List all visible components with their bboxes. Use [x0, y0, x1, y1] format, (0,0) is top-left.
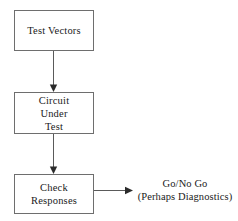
box-label-line-2: Responses [31, 194, 77, 207]
box-label-line-2: Under [40, 107, 67, 120]
arrow-vectors-to-circuit [50, 51, 57, 92]
arrow-check-to-output [94, 187, 133, 194]
process-box-test-vectors: Test Vectors [14, 10, 94, 51]
output-label-line-2: (Perhaps Diagnostics) [133, 190, 237, 203]
arrowhead-icon [50, 85, 57, 93]
box-label-line-1: Circuit [39, 94, 70, 107]
box-label-line-1: Check [40, 181, 68, 194]
box-label-line-1: Test Vectors [27, 24, 81, 37]
process-box-check-responses: Check Responses [14, 174, 94, 214]
box-label-line-3: Test [45, 120, 63, 133]
arrowhead-icon [125, 187, 133, 194]
flowchart-diagram: Test Vectors Circuit Under Test Check Re… [0, 0, 238, 221]
output-label: Go/No Go (Perhaps Diagnostics) [133, 177, 237, 203]
process-box-circuit-under-test: Circuit Under Test [14, 92, 94, 134]
output-label-line-1: Go/No Go [133, 177, 237, 190]
arrowhead-icon [50, 167, 57, 175]
arrow-circuit-to-check [50, 134, 57, 174]
